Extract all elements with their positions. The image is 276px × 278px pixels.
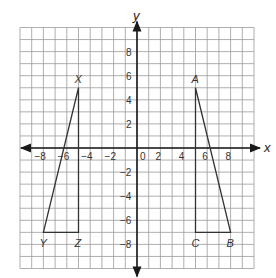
x-tick-label: −6 [58, 151, 70, 162]
vertex-label-b: B [227, 237, 234, 249]
y-tick-label: −2 [120, 167, 132, 178]
x-tick-label: 8 [226, 151, 232, 162]
vertex-label-x: X [74, 73, 83, 85]
y-tick-label: −8 [120, 239, 132, 250]
vertex-label-a: A [191, 73, 199, 85]
y-tick-label: 2 [126, 119, 132, 130]
y-tick-label: −4 [120, 191, 132, 202]
x-axis-label: x [263, 140, 271, 155]
x-tick-label: 6 [202, 151, 208, 162]
vertex-label-z: Z [74, 237, 83, 249]
y-tick-label: −6 [120, 215, 132, 226]
vertex-label-y: Y [39, 237, 47, 249]
y-tick-label: 8 [126, 47, 132, 58]
coordinate-plane: −8−6−4−2024688642−2−4−6−8 XYZABC x y [0, 0, 276, 278]
y-axis-label: y [132, 8, 141, 23]
vertex-label-c: C [192, 237, 200, 249]
x-tick-label: −4 [81, 151, 93, 162]
axes [21, 22, 260, 277]
x-tick-label: 0 [140, 151, 146, 162]
x-tick-label: 2 [155, 151, 161, 162]
triangle-xyz: XYZ [39, 73, 82, 250]
x-tick-label: −8 [34, 151, 46, 162]
y-tick-label: 4 [126, 95, 132, 106]
y-tick-label: 6 [126, 71, 132, 82]
x-tick-label: 4 [179, 151, 185, 162]
x-tick-label: −2 [105, 151, 117, 162]
